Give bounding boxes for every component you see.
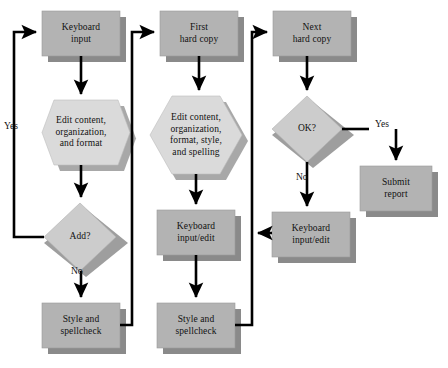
edge-label-no-add: No: [71, 266, 83, 277]
flowchart-graphics: [0, 0, 448, 368]
edge-label-yes-left: Yes: [4, 121, 18, 132]
node-keyboard-input: [42, 11, 120, 56]
node-submit-report: [360, 166, 432, 211]
edge-label-no-ok: No: [296, 172, 308, 183]
node-keyboard-input-edit-2: [272, 212, 350, 257]
edge-add-yes-loop: [14, 32, 44, 237]
node-keyboard-input-edit-1: [157, 210, 235, 255]
node-style-spellcheck-1: [42, 303, 120, 348]
node-edit-content-1: [42, 100, 130, 165]
edge-label-yes-ok: Yes: [375, 119, 389, 130]
edge-style2-to-nextcopy: [235, 32, 267, 325]
flowchart-canvas: Keyboard input Edit content, organizatio…: [0, 0, 448, 368]
node-first-hard-copy: [160, 11, 238, 56]
edge-style1-to-firstcopy: [120, 32, 154, 325]
node-style-spellcheck-2: [157, 303, 235, 348]
node-next-hard-copy: [273, 11, 351, 56]
